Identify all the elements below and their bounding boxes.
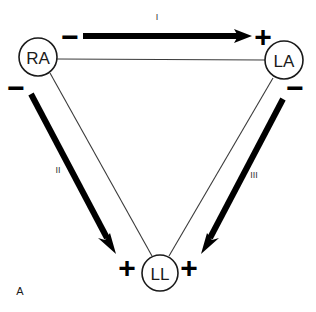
triangle-side-la-ll: [169, 78, 273, 256]
einthoven-diagram-canvas: I − + II − + III − + RA LA: [0, 0, 316, 312]
triangle-side-ra-la: [57, 59, 265, 60]
node-LL: LL: [142, 255, 178, 291]
node-RA: RA: [19, 38, 57, 76]
node-LA-label: LA: [274, 52, 295, 71]
lead-II-positive-sign: +: [118, 251, 136, 284]
lead-III-group: III − +: [180, 71, 304, 284]
lead-II-arrow-shaft: [31, 94, 107, 238]
lead-III-arrow-shaft: [210, 99, 283, 238]
panel-letter-label: A: [16, 285, 24, 297]
triangle-sides-group: [50, 59, 273, 256]
node-LL-label: LL: [151, 265, 170, 284]
lead-III-positive-sign: +: [180, 251, 198, 284]
lead-I-group: I − +: [61, 12, 272, 53]
lead-I-negative-sign: −: [61, 20, 79, 53]
lead-II-label: II: [55, 165, 60, 175]
node-LA: LA: [265, 41, 303, 79]
lead-II-negative-sign: −: [7, 71, 25, 104]
einthoven-triangle-figure: I − + II − + III − + RA LA: [0, 0, 316, 312]
node-RA-label: RA: [26, 49, 50, 68]
lead-I-label: I: [156, 12, 159, 22]
lead-II-group: II − +: [7, 71, 136, 284]
lead-III-label: III: [250, 170, 258, 180]
